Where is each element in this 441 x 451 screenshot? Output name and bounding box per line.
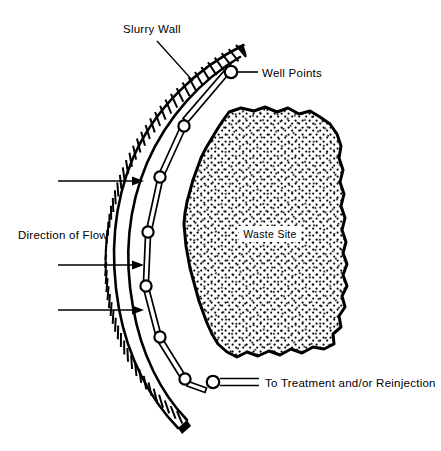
direction-of-flow-label: Direction of Flow — [18, 229, 108, 241]
well-point-node — [154, 171, 165, 182]
waste-site: Waste Site — [180, 100, 355, 370]
well-point-node — [140, 280, 151, 291]
well-points-label: Well Points — [262, 67, 322, 79]
well-point-node — [142, 226, 153, 237]
well-point-node — [178, 120, 189, 131]
well-points-callout: Well Points — [238, 67, 322, 79]
waste-site-label: Waste Site — [243, 228, 296, 240]
discharge-callout: To Treatment and/or Reinjection — [220, 377, 436, 389]
flow-arrow — [58, 260, 144, 269]
well-point-node — [179, 373, 190, 384]
slurry-wall-callout: Slurry Wall — [123, 23, 193, 81]
diagram-canvas: Waste Site Direction of Flow Slurry Wall — [0, 0, 441, 451]
well-point-discharge-node — [207, 376, 219, 388]
well-point-node — [225, 66, 237, 78]
arrowhead-icon — [132, 260, 144, 269]
slurry-wall-leader — [157, 41, 193, 81]
to-treatment-label: To Treatment and/or Reinjection — [265, 377, 436, 389]
arrowhead-icon — [132, 305, 144, 314]
slurry-wall-label: Slurry Wall — [123, 23, 181, 35]
well-point-node — [154, 331, 165, 342]
containment-diagram: Waste Site Direction of Flow Slurry Wall — [0, 0, 441, 451]
